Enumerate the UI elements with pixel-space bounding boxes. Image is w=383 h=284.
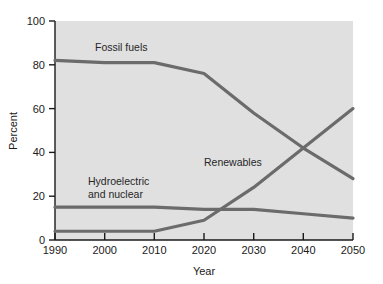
x-axis-title: Year <box>193 265 216 277</box>
y-tick-label: 60 <box>33 103 45 115</box>
series-label-hydro-line2: and nuclear <box>88 188 143 200</box>
x-tick-label: 2040 <box>291 244 315 256</box>
series-label-hydro-line1: Hydroelectric <box>88 175 149 187</box>
chart-figure: 100 80 60 40 20 0 1990 2000 2010 2020 20… <box>0 0 383 284</box>
energy-mix-line-chart: 100 80 60 40 20 0 1990 2000 2010 2020 20… <box>0 0 383 284</box>
y-tick-label: 20 <box>33 190 45 202</box>
x-tick-label: 2030 <box>241 244 265 256</box>
y-tick-label: 100 <box>27 15 45 27</box>
x-tick-label: 2050 <box>341 244 365 256</box>
series-label-renewables: Renewables <box>204 156 262 168</box>
x-tick-label: 1990 <box>43 244 67 256</box>
x-tick-label: 2000 <box>92 244 116 256</box>
y-tick-label: 40 <box>33 146 45 158</box>
x-tick-label: 2020 <box>192 244 216 256</box>
x-tick-labels: 1990 2000 2010 2020 2030 2040 2050 <box>43 244 365 256</box>
y-tick-label: 80 <box>33 59 45 71</box>
y-axis-title: Percent <box>7 112 19 150</box>
x-tick-label: 2010 <box>142 244 166 256</box>
y-tick-labels: 100 80 60 40 20 0 <box>27 15 45 246</box>
series-label-fossil-fuels: Fossil fuels <box>95 41 148 53</box>
